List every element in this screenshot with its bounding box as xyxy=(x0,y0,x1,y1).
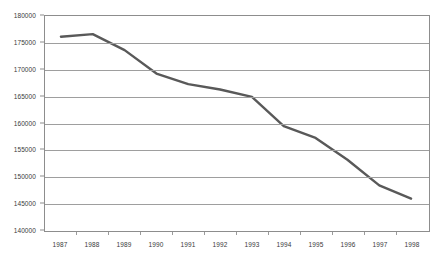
gridline xyxy=(45,204,429,205)
x-axis-tick-mark xyxy=(300,232,301,235)
x-axis-tick-label: 1996 xyxy=(341,241,356,249)
x-axis-tick-label: 1990 xyxy=(149,241,164,249)
x-axis-tick-label: 1988 xyxy=(85,241,100,249)
x-axis-tick-label: 1995 xyxy=(309,241,324,249)
series-line xyxy=(61,34,411,199)
x-axis-tick-label: 1997 xyxy=(373,241,388,249)
x-axis-tick-label: 1994 xyxy=(277,241,292,249)
x-axis-tick-label: 1992 xyxy=(213,241,228,249)
y-axis-tick-label: 145000 xyxy=(14,200,36,207)
gridline xyxy=(45,70,429,71)
y-axis-tick-label: 150000 xyxy=(14,173,36,180)
x-axis-tick-label: 1987 xyxy=(53,241,68,249)
y-axis: 1800001750001700001650001600001550001500… xyxy=(0,0,40,260)
x-axis-tick-label: 1993 xyxy=(245,241,260,249)
x-axis-tick-label: 1991 xyxy=(181,241,196,249)
x-axis-tick-label: 1998 xyxy=(405,241,420,249)
x-axis-tick-mark xyxy=(364,232,365,235)
gridline xyxy=(45,177,429,178)
x-axis-tick-mark xyxy=(236,232,237,235)
x-axis-tick-mark xyxy=(204,232,205,235)
y-axis-tick-label: 170000 xyxy=(14,65,36,72)
x-axis-tick-mark xyxy=(396,232,397,235)
x-axis-tick-mark xyxy=(268,232,269,235)
gridline xyxy=(45,43,429,44)
x-axis-tick-mark xyxy=(76,232,77,235)
x-axis-tick-mark xyxy=(332,232,333,235)
x-axis-tick-mark xyxy=(172,232,173,235)
plot-area xyxy=(44,15,430,232)
x-axis-tick-label: 1989 xyxy=(117,241,132,249)
x-axis-tick-mark xyxy=(108,232,109,235)
y-axis-tick-label: 165000 xyxy=(14,92,36,99)
y-axis-tick-label: 160000 xyxy=(14,119,36,126)
y-axis-tick-label: 175000 xyxy=(14,38,36,45)
y-axis-tick-label: 140000 xyxy=(14,227,36,234)
line-chart: 1800001750001700001650001600001550001500… xyxy=(0,0,440,260)
x-axis-tick-mark xyxy=(140,232,141,235)
y-axis-tick-label: 180000 xyxy=(14,12,36,19)
x-axis: 1987198819891990199119921993199419951996… xyxy=(44,232,430,260)
gridline xyxy=(45,150,429,151)
gridline xyxy=(45,97,429,98)
y-axis-tick-label: 155000 xyxy=(14,146,36,153)
gridline xyxy=(45,124,429,125)
